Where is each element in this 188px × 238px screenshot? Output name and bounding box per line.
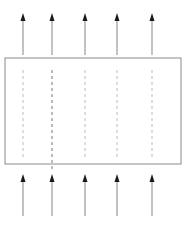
inflow-arrow bbox=[50, 174, 55, 216]
outflow-arrow-head bbox=[115, 13, 120, 21]
inflow-arrow-head bbox=[50, 174, 55, 182]
inflow-arrow bbox=[21, 174, 26, 216]
outflow-arrow-group bbox=[21, 13, 155, 55]
inflow-arrow-head bbox=[83, 174, 88, 182]
inflow-arrow-head bbox=[150, 174, 155, 182]
inflow-arrow-group bbox=[21, 174, 155, 216]
outflow-arrow-head bbox=[150, 13, 155, 21]
rectangular-region bbox=[5, 58, 181, 164]
outflow-arrow bbox=[21, 13, 26, 55]
outflow-arrow-head bbox=[83, 13, 88, 21]
inflow-arrow bbox=[150, 174, 155, 216]
figure-canvas bbox=[0, 0, 188, 238]
outflow-arrow bbox=[150, 13, 155, 55]
diagram-svg bbox=[0, 0, 188, 238]
inflow-arrow-head bbox=[21, 174, 26, 182]
inflow-arrow bbox=[83, 174, 88, 216]
inflow-arrow-head bbox=[115, 174, 120, 182]
outflow-arrow bbox=[50, 13, 55, 55]
outflow-arrow-head bbox=[21, 13, 26, 21]
outflow-arrow bbox=[115, 13, 120, 55]
figure-caption bbox=[0, 227, 188, 238]
outflow-arrow bbox=[83, 13, 88, 55]
outflow-arrow-head bbox=[50, 13, 55, 21]
inflow-arrow bbox=[115, 174, 120, 216]
